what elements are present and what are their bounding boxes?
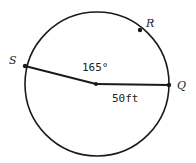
label-q: Q [177, 79, 186, 92]
radius-segment-oq [96, 84, 169, 85]
radius-label: 50ft [112, 92, 139, 105]
label-r: R [145, 17, 154, 30]
label-s: S [9, 54, 17, 67]
point-q [167, 83, 171, 87]
point-r [138, 28, 142, 32]
point-s [23, 64, 27, 68]
center-point [94, 82, 98, 86]
circle-diagram: S R Q 165° 50ft [0, 0, 196, 163]
angle-label: 165° [82, 61, 109, 74]
